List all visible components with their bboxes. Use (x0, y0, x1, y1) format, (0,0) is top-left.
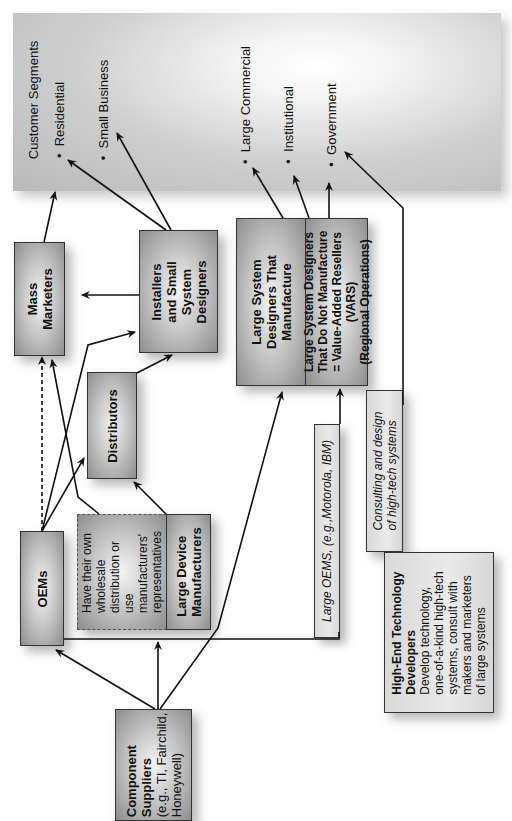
connector-arrows (0, 0, 512, 819)
